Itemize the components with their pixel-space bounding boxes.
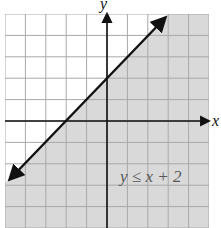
inequality-graph: x y y ≤ x + 2 — [0, 0, 221, 228]
y-axis-label: y — [98, 0, 108, 13]
x-axis-label: x — [211, 112, 219, 129]
inequality-label: y ≤ x + 2 — [118, 167, 182, 186]
